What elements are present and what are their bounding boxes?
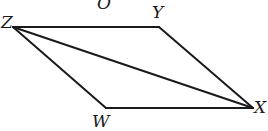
labels: Z Y X W O <box>0 0 267 131</box>
edges <box>13 27 253 108</box>
segment-yx <box>159 27 253 108</box>
point-label-o: O <box>97 0 111 13</box>
diagonal-zx <box>13 27 253 108</box>
segment-wz <box>13 27 106 108</box>
vertex-label-w: W <box>92 111 111 131</box>
vertex-label-x: X <box>252 97 267 117</box>
parallelogram-diagram: Z Y X W O <box>0 0 268 131</box>
vertex-label-z: Z <box>0 12 14 32</box>
vertex-label-y: Y <box>152 2 165 22</box>
